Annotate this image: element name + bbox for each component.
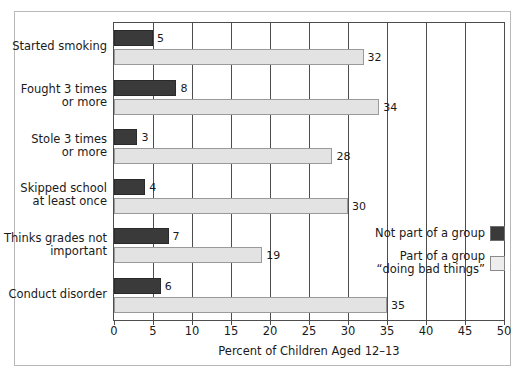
bar-in-group xyxy=(114,99,379,115)
bar-value-label: 6 xyxy=(165,281,172,292)
x-tick-label: 25 xyxy=(302,326,317,338)
x-tick-label: 50 xyxy=(497,326,512,338)
gridline xyxy=(270,23,271,320)
bar-value-label: 3 xyxy=(141,132,148,143)
bar-value-label: 8 xyxy=(180,83,187,94)
bar-value-label: 7 xyxy=(173,231,180,242)
x-tick-label: 30 xyxy=(341,326,356,338)
bar-value-label: 5 xyxy=(157,33,164,44)
bar-not-in-group xyxy=(114,30,153,46)
bar-not-in-group xyxy=(114,278,161,294)
category-label: Stole 3 times or more xyxy=(31,133,107,159)
bar-value-label: 35 xyxy=(391,300,405,311)
gridline xyxy=(153,23,154,320)
gridline xyxy=(231,23,232,320)
x-tick-label: 10 xyxy=(185,326,200,338)
x-axis-ticks: 05101520253035404550 xyxy=(113,323,505,341)
bar-value-label: 32 xyxy=(368,52,382,63)
bar-in-group xyxy=(114,148,332,164)
category-label: Fought 3 times or more xyxy=(21,83,107,109)
legend-item: Not part of a group xyxy=(350,226,505,241)
y-axis-category-labels: Started smokingFought 3 times or moreSto… xyxy=(0,22,107,321)
bar-value-label: 4 xyxy=(149,182,156,193)
legend-label: Not part of a group xyxy=(375,227,490,240)
bar-in-group xyxy=(114,49,364,65)
bar-in-group xyxy=(114,297,387,313)
legend-item: Part of a group “doing bad things” xyxy=(350,250,505,276)
bar-not-in-group xyxy=(114,80,176,96)
gridline xyxy=(309,23,310,320)
category-label: Skipped school at least once xyxy=(20,182,107,208)
gridline xyxy=(192,23,193,320)
x-tick-label: 5 xyxy=(149,326,156,338)
legend-swatch-light xyxy=(490,256,505,271)
bar-value-label: 19 xyxy=(266,250,280,261)
bar-not-in-group xyxy=(114,129,137,145)
x-tick-label: 15 xyxy=(224,326,239,338)
x-tick-label: 0 xyxy=(110,326,117,338)
x-tick-label: 45 xyxy=(458,326,473,338)
category-label: Started smoking xyxy=(12,40,107,53)
gridline xyxy=(348,23,349,320)
bar-in-group xyxy=(114,247,262,263)
x-tick-label: 35 xyxy=(380,326,395,338)
x-tick-label: 20 xyxy=(263,326,278,338)
bar-value-label: 28 xyxy=(336,151,350,162)
category-label: Thinks grades not important xyxy=(4,232,107,258)
bar-value-label: 34 xyxy=(383,102,397,113)
bar-value-label: 30 xyxy=(352,201,366,212)
bar-not-in-group xyxy=(114,228,169,244)
category-label: Conduct disorder xyxy=(8,288,107,301)
bar-not-in-group xyxy=(114,179,145,195)
legend-swatch-dark xyxy=(490,226,505,241)
x-tick-label: 40 xyxy=(419,326,434,338)
x-axis-title: Percent of Children Aged 12–13 xyxy=(113,344,505,358)
chart-figure: Started smokingFought 3 times or moreSto… xyxy=(0,0,526,379)
legend-label: Part of a group “doing bad things” xyxy=(376,250,490,276)
bar-in-group xyxy=(114,198,348,214)
chart-legend: Not part of a groupPart of a group “doin… xyxy=(350,226,505,285)
